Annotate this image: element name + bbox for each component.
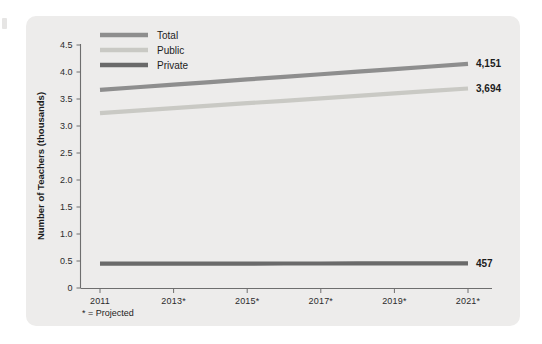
y-tick-label: 0 xyxy=(67,283,72,293)
y-tick-label: 4.0 xyxy=(60,67,73,77)
x-tick-label: 2015* xyxy=(235,296,260,306)
y-axis-ticks: 00.51.01.52.02.53.03.54.04.5 xyxy=(60,40,81,293)
y-tick-label: 4.5 xyxy=(60,40,73,50)
y-tick-label: 1.5 xyxy=(60,202,73,212)
y-tick-label: 3.0 xyxy=(60,121,73,131)
x-tick-label: 2011 xyxy=(90,296,110,306)
series-line-public xyxy=(100,89,468,114)
y-tick-label: 2.0 xyxy=(60,175,73,185)
series-value-labels: 4,1513,694457 xyxy=(476,58,501,268)
y-tick-label: 1.0 xyxy=(60,229,73,239)
projection-footnote: * = Projected xyxy=(82,308,134,318)
line-chart: 00.51.01.52.02.53.03.54.04.5 20112013*20… xyxy=(0,0,542,344)
x-tick-label: 2019* xyxy=(382,296,407,306)
x-tick-label: 2017* xyxy=(309,296,334,306)
legend-label-total: Total xyxy=(157,30,178,41)
x-tick-label: 2013* xyxy=(161,296,186,306)
chart-legend: TotalPublicPrivate xyxy=(100,30,189,71)
x-tick-label: 2021* xyxy=(456,296,481,306)
series-lines xyxy=(100,64,468,264)
legend-label-public: Public xyxy=(157,45,184,56)
series-line-total xyxy=(100,64,468,90)
value-label-total: 4,151 xyxy=(476,58,501,69)
x-axis-ticks: 20112013*2015*2017*2019*2021* xyxy=(90,288,481,306)
value-label-private: 457 xyxy=(476,258,493,269)
value-label-public: 3,694 xyxy=(476,83,501,94)
y-tick-label: 3.5 xyxy=(60,94,73,104)
y-tick-label: 2.5 xyxy=(60,148,73,158)
y-tick-label: 0.5 xyxy=(60,256,73,266)
y-axis-title: Number of Teachers (thousands) xyxy=(35,92,46,240)
legend-label-private: Private xyxy=(157,60,189,71)
